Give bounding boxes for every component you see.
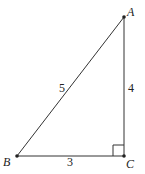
- right-angle-marker: [113, 145, 124, 156]
- side-ac-length-label: 4: [128, 81, 134, 95]
- side-ab-length-label: 5: [59, 81, 65, 95]
- vertex-a-label: A: [126, 5, 135, 19]
- right-triangle-figure: A B C 5 4 3: [0, 0, 145, 174]
- vertex-a-point: [122, 15, 126, 19]
- side-ab: [17, 17, 124, 156]
- triangle-canvas: A B C 5 4 3: [0, 0, 145, 174]
- vertex-b-label: B: [3, 155, 11, 169]
- side-bc-length-label: 3: [67, 155, 73, 169]
- vertex-b-point: [15, 154, 19, 158]
- vertex-c-label: C: [126, 157, 135, 171]
